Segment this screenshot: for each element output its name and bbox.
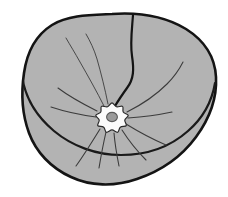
anatomical-line-drawing: Cup-shaped anatomical structure with cen… (0, 0, 228, 197)
hub-center-oval (107, 112, 118, 121)
figure-root: Cup-shaped anatomical structure with cen… (0, 0, 228, 197)
